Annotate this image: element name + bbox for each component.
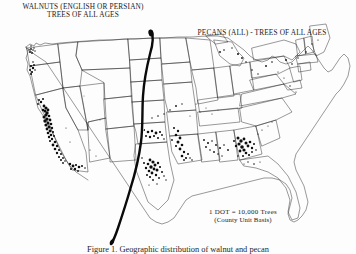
figure-caption: Figure 1. Geographic distribution of wal…: [0, 245, 356, 254]
legend-dot-value: 1 DOT = 10,000 Trees: [196, 208, 290, 216]
legend-unit-basis: (County Unit Basis): [196, 216, 290, 224]
map-legend: 1 DOT = 10,000 Trees (County Unit Basis): [196, 208, 290, 224]
walnut-map-title: WALNUTS (ENGLISH OR PERSIAN) TREES OF AL…: [8, 3, 158, 20]
pecan-map-title: PECANS (ALL) - TREES OF ALL AGES: [186, 29, 338, 37]
figure-page: WALNUTS (ENGLISH OR PERSIAN) TREES OF AL…: [0, 0, 356, 254]
us-dot-density-map: [0, 0, 356, 254]
